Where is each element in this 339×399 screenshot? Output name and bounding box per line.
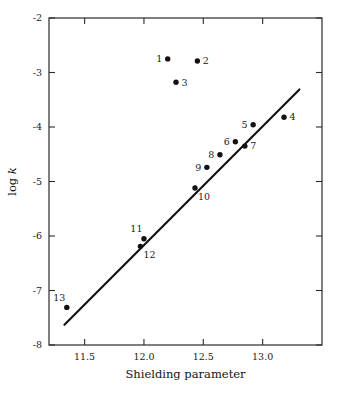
y-axis-ticks: -2-3-4-5-6-7-8 [33,12,322,350]
plot-axes [49,18,322,345]
y-tick-label: -5 [33,176,42,187]
y-tick-label: -7 [33,285,42,296]
data-point-label-2: 2 [203,55,209,66]
data-point-label-4: 4 [290,111,296,122]
data-point-marker-2 [195,58,200,63]
y-tick-label: -2 [33,12,42,23]
y-tick-label: -8 [33,339,42,350]
data-point-marker-8 [217,152,222,157]
data-point-marker-10 [192,185,197,190]
x-tick-label: 13.0 [252,351,273,362]
data-point-label-3: 3 [182,77,188,88]
data-point-marker-5 [250,122,255,127]
data-point-marker-12 [138,244,143,249]
data-point-marker-9 [204,165,209,170]
x-axis-ticks: 11.512.012.513.0 [74,18,273,362]
x-tick-label: 11.5 [74,351,95,362]
data-point-label-6: 6 [224,136,230,147]
data-point-label-7: 7 [250,140,256,151]
data-point-marker-1 [165,56,170,61]
data-point-label-13: 13 [53,292,65,303]
y-axis-title-prefix: log [5,174,19,196]
x-axis-title: Shielding parameter [125,367,246,381]
y-tick-label: -6 [33,230,42,241]
data-point-label-8: 8 [208,149,214,160]
data-point-label-9: 9 [195,162,201,173]
data-point-label-10: 10 [198,191,210,202]
data-point-label-11: 11 [130,223,142,234]
data-point-label-5: 5 [242,119,248,130]
data-point-marker-11 [141,236,146,241]
data-point-marker-6 [233,139,238,144]
data-point-marker-13 [64,305,69,310]
plot-frame [49,18,322,345]
regression-fit-line [64,89,299,324]
plot-canvas: 11.512.012.513.0 -2-3-4-5-6-7-8 12345678… [0,0,339,399]
x-tick-label: 12.0 [133,351,154,362]
scatter-plot-figure: 11.512.012.513.0 -2-3-4-5-6-7-8 12345678… [0,0,339,399]
x-tick-label: 12.5 [193,351,214,362]
data-point-marker-3 [173,80,178,85]
data-point-marker-4 [281,114,286,119]
y-tick-label: -4 [33,121,42,132]
fit-line-segment [64,89,299,324]
y-axis-title-variable: k [5,167,19,174]
data-points-group: 12345678910111213 [53,53,295,310]
data-point-marker-7 [242,143,247,148]
data-point-label-1: 1 [156,53,162,64]
y-axis-title: log k [5,167,19,196]
y-tick-label: -3 [33,67,42,78]
data-point-label-12: 12 [143,249,155,260]
